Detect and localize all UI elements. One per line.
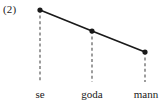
data-point-se: [37, 7, 42, 12]
contour-segment-se-to-goda: [40, 10, 92, 31]
x-tick-label-mann: mann: [134, 88, 158, 100]
pitch-contour-figure: (2) segodamann: [0, 0, 166, 105]
x-tick-label-goda: goda: [81, 88, 102, 100]
data-point-goda: [89, 28, 94, 33]
data-point-group: [37, 7, 147, 54]
x-tick-label-se: se: [35, 88, 44, 100]
contour-segment-goda-to-mann: [92, 31, 145, 52]
data-point-mann: [142, 49, 147, 54]
